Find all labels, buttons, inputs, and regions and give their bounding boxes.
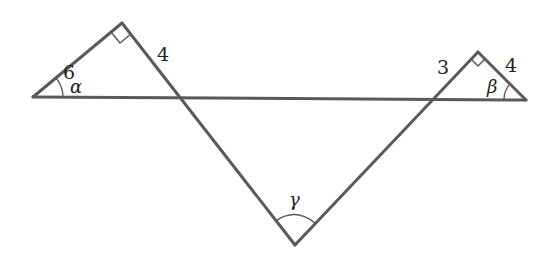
beta-arc xyxy=(504,84,510,99)
left-long-side xyxy=(122,23,295,245)
gamma-arc xyxy=(276,214,315,223)
right-triangle-leg-4 xyxy=(478,52,526,100)
geometry-diagram: 6 4 α 3 4 β γ xyxy=(0,0,554,263)
label-3: 3 xyxy=(437,56,449,78)
base-line xyxy=(33,97,526,100)
label-4-left: 4 xyxy=(157,43,169,65)
right-long-side xyxy=(295,52,478,245)
right-angle-marker-right xyxy=(471,59,485,66)
label-gamma: γ xyxy=(289,189,300,210)
right-angle-marker-left xyxy=(111,32,131,43)
alpha-arc xyxy=(56,78,63,97)
label-beta: β xyxy=(486,76,497,97)
label-alpha: α xyxy=(70,76,82,97)
label-4-right: 4 xyxy=(505,54,517,76)
